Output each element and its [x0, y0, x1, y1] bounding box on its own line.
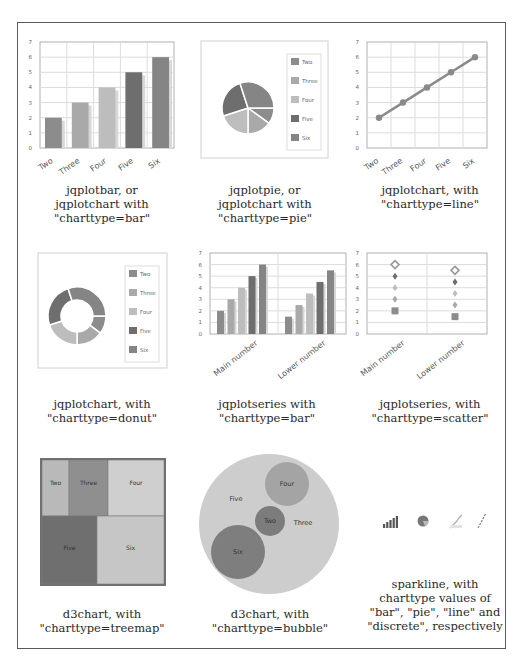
svg-text:Five: Five [117, 156, 135, 173]
pie-chart-svg: TwoThreeFourFiveSix [200, 40, 330, 160]
svg-text:Three: Three [301, 78, 318, 84]
caption-sparkline: sparkline, with charttype values of "bar… [355, 577, 515, 633]
svg-text:7: 7 [356, 250, 360, 256]
jqplotseries-scatter-chart: 01234567Main numberLower number [355, 246, 505, 391]
svg-text:5: 5 [356, 273, 360, 279]
svg-text:Six: Six [140, 347, 149, 353]
donut-chart-svg: TwoThreeFourFiveSix [37, 252, 169, 370]
svg-text:5: 5 [199, 273, 203, 279]
caption-bar: jqplotbar, or jqplotchart with "charttyp… [22, 183, 182, 225]
svg-text:1: 1 [356, 130, 360, 136]
bar-chart-svg: 01234567TwoThreeFourFiveSix [22, 36, 182, 176]
svg-text:Four: Four [302, 97, 315, 103]
line-chart-svg: 01234567TwoThreeFourFiveSix [355, 36, 505, 176]
jqplotseries-bar-chart: 01234567Main numberLower number [192, 246, 352, 391]
caption-scatter: jqplotseries, with "charttype=scatter" [350, 397, 510, 425]
svg-text:Six: Six [302, 135, 311, 141]
svg-text:Four: Four [89, 156, 109, 174]
svg-text:5: 5 [29, 69, 33, 75]
svg-text:0: 0 [356, 145, 360, 151]
caption-donut: jqplotchart, with "charttype=donut" [22, 397, 182, 425]
svg-text:Five: Five [64, 544, 76, 551]
svg-text:0: 0 [199, 331, 203, 337]
svg-text:Two: Two [49, 479, 62, 486]
svg-text:2: 2 [199, 308, 203, 314]
svg-text:Four: Four [140, 309, 153, 315]
svg-text:0: 0 [29, 145, 33, 151]
svg-text:Two: Two [263, 517, 276, 525]
svg-text:Three: Three [379, 156, 404, 176]
caption-treemap: d3chart, with "charttype=treemap" [22, 607, 182, 635]
svg-text:4: 4 [199, 285, 203, 291]
svg-text:Three: Three [139, 290, 156, 296]
caption-series-bar: jqplotseries with "charttype=bar" [187, 397, 347, 425]
treemap-chart-svg: TwoThreeFourFiveSix [40, 458, 166, 586]
svg-text:1: 1 [356, 319, 360, 325]
svg-text:Two: Two [301, 59, 313, 65]
caption-pie: jqplotpie, or jqplotchart with "charttyp… [185, 183, 345, 225]
svg-text:Three: Three [293, 519, 313, 527]
svg-text:2: 2 [356, 308, 360, 314]
jqplotbar-chart: 01234567TwoThreeFourFiveSix [22, 36, 182, 176]
svg-text:1: 1 [29, 130, 33, 136]
jqplotchart-donut-chart: TwoThreeFourFiveSix [37, 252, 169, 370]
scatter-chart-svg: 01234567Main numberLower number [355, 246, 505, 391]
svg-text:Five: Five [434, 156, 452, 173]
svg-text:Three: Three [57, 156, 82, 176]
svg-text:Three: Three [79, 479, 97, 486]
svg-text:5: 5 [356, 69, 360, 75]
jqplotpie-chart: TwoThreeFourFiveSix [200, 40, 330, 160]
svg-text:4: 4 [29, 84, 33, 90]
svg-text:Lower number: Lower number [276, 338, 328, 381]
svg-text:6: 6 [356, 54, 360, 60]
svg-text:Two: Two [362, 156, 380, 173]
svg-text:Two: Two [36, 156, 54, 173]
series-bar-chart-svg: 01234567Main numberLower number [192, 246, 352, 391]
svg-text:2: 2 [356, 115, 360, 121]
svg-text:7: 7 [356, 39, 360, 45]
svg-text:Five: Five [302, 116, 314, 122]
svg-text:6: 6 [29, 54, 33, 60]
svg-text:Six: Six [147, 156, 162, 170]
svg-text:0: 0 [356, 331, 360, 337]
svg-text:7: 7 [29, 39, 33, 45]
svg-text:Lower number: Lower number [415, 338, 467, 381]
svg-text:Main number: Main number [359, 338, 407, 378]
svg-text:2: 2 [29, 115, 33, 121]
svg-text:4: 4 [356, 285, 360, 291]
svg-text:6: 6 [356, 262, 360, 268]
svg-text:7: 7 [199, 250, 203, 256]
bubble-chart-svg: TwoThreeFourFiveSix [196, 451, 342, 597]
svg-text:Five: Five [230, 495, 243, 503]
caption-bubble: d3chart, with "charttype=bubble" [190, 607, 350, 635]
svg-text:Six: Six [126, 544, 135, 551]
d3chart-treemap-chart: TwoThreeFourFiveSix [40, 458, 166, 586]
svg-text:3: 3 [356, 296, 360, 302]
jqplotchart-line-chart: 01234567TwoThreeFourFiveSix [355, 36, 505, 176]
svg-text:3: 3 [199, 296, 203, 302]
sparkline-row [380, 510, 500, 530]
svg-text:Two: Two [139, 271, 151, 277]
svg-text:6: 6 [199, 262, 203, 268]
svg-text:Four: Four [280, 480, 295, 488]
svg-text:Five: Five [140, 328, 152, 334]
svg-text:Six: Six [233, 548, 243, 556]
caption-line: jqplotchart, with "charttype=line" [350, 183, 510, 211]
svg-text:Six: Six [461, 156, 476, 170]
svg-text:1: 1 [199, 319, 203, 325]
sparkline-svg [380, 510, 500, 530]
svg-text:3: 3 [29, 100, 33, 106]
svg-text:Main number: Main number [212, 338, 260, 378]
d3chart-bubble-chart: TwoThreeFourFiveSix [196, 451, 342, 597]
svg-text:4: 4 [356, 84, 360, 90]
svg-text:Four: Four [409, 156, 429, 174]
svg-text:3: 3 [356, 100, 360, 106]
svg-text:Four: Four [129, 479, 143, 486]
